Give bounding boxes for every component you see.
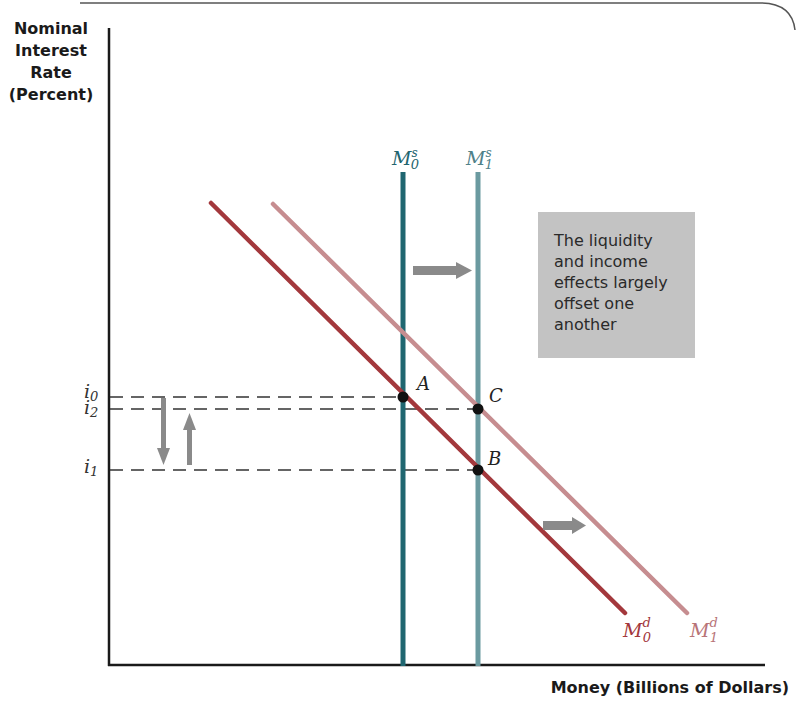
tick-i1: i1 (84, 455, 98, 479)
annotation-line: The liquidity (554, 230, 685, 251)
y-axis-title-line: Interest (0, 40, 102, 62)
point-a-marker (398, 392, 409, 403)
point-b-label: B (487, 448, 501, 469)
label-m0d: Md0 (622, 615, 651, 645)
y-axis-title-line: Nominal (0, 18, 102, 40)
annotation-line: and income (554, 251, 685, 272)
point-c-label: C (489, 385, 503, 406)
page-frame (80, 3, 795, 30)
label-m1d: Md1 (689, 615, 718, 645)
demand-shift-arrow-icon (543, 517, 586, 534)
y-axis-title-line: Rate (0, 62, 102, 84)
annotation-line: effects largely (554, 272, 685, 293)
annotation-line: another (554, 314, 685, 335)
point-a-label: A (415, 373, 430, 394)
x-axis-title: Money (Billions of Dollars) (551, 678, 789, 697)
y-axis-title: Nominal Interest Rate (Percent) (0, 18, 102, 106)
label-m0s: Ms0 (391, 146, 419, 172)
down-arrow-icon (157, 398, 170, 465)
annotation-box: The liquidity and income effects largely… (538, 212, 695, 358)
point-c-marker (473, 404, 484, 415)
up-arrow-icon (183, 413, 196, 465)
label-m1s: Ms1 (465, 146, 493, 172)
y-axis-title-line: (Percent) (0, 84, 102, 106)
point-b-marker (473, 465, 484, 476)
supply-shift-arrow-icon (413, 262, 472, 279)
annotation-line: offset one (554, 293, 685, 314)
